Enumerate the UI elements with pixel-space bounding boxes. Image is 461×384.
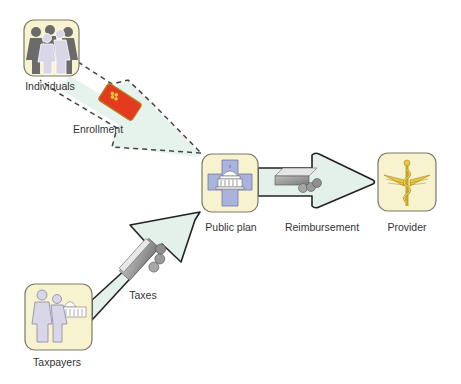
individuals-node xyxy=(24,20,79,76)
public-plan-label: Public plan xyxy=(205,221,256,233)
taxes-arrow xyxy=(92,212,200,320)
taxpayers-node xyxy=(25,284,92,350)
reimbursement-arrow xyxy=(258,153,375,208)
public-plan-node xyxy=(202,154,258,212)
taxpayers-label: Taxpayers xyxy=(33,356,81,368)
people-group-icon xyxy=(26,25,78,74)
provider-node xyxy=(378,153,436,211)
taxes-label: Taxes xyxy=(129,289,156,301)
reimbursement-label: Reimbursement xyxy=(285,221,359,233)
provider-label: Provider xyxy=(387,221,426,233)
enrollment-label: Enrollment xyxy=(73,123,123,135)
individuals-label: Individuals xyxy=(25,80,75,92)
diagram-canvas xyxy=(0,0,461,384)
